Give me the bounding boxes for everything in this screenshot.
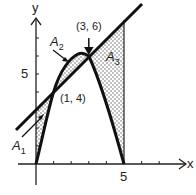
- y-tick-label-5: 5: [21, 67, 28, 80]
- x-axis-label: x: [187, 157, 194, 170]
- region-label-a3: A3: [106, 50, 120, 67]
- point-label-3-6: (3, 6): [76, 21, 102, 32]
- point-label-1-4: (1, 4): [60, 93, 86, 104]
- y-axis-label: y: [32, 1, 39, 14]
- x-tick-label-5: 5: [120, 170, 127, 183]
- region-label-a2: A2: [50, 35, 64, 52]
- region-label-a1: A1: [12, 139, 26, 156]
- arrow-to-a2-icon: [53, 50, 69, 62]
